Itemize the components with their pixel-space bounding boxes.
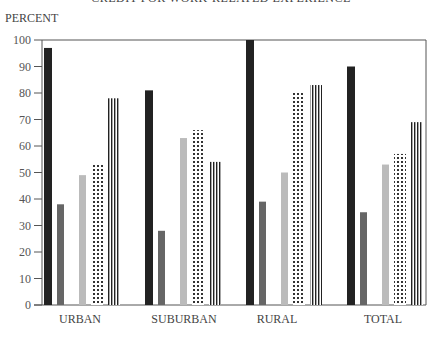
- y-tick-label: 10: [19, 272, 31, 286]
- x-category-label: TOTAL: [364, 312, 402, 326]
- x-category-label: RURAL: [257, 312, 298, 326]
- y-tick-label: 50: [19, 166, 31, 180]
- bar-total-series-3: [382, 165, 389, 305]
- bar-total-series-5: [411, 122, 423, 305]
- y-tick-label: 0: [25, 298, 31, 312]
- bar-suburban-series-2: [158, 231, 165, 305]
- y-tick-label: 100: [13, 33, 31, 47]
- bars: [44, 40, 423, 305]
- y-tick-label: 40: [19, 192, 31, 206]
- x-category-label: URBAN: [59, 312, 101, 326]
- y-tick-label: 20: [19, 245, 31, 259]
- y-tick-label: 90: [19, 60, 31, 74]
- y-tick-label: 70: [19, 113, 31, 127]
- x-categories: URBANSUBURBANRURALTOTAL: [59, 312, 402, 326]
- bar-suburban-series-5: [209, 162, 221, 305]
- x-category-label: SUBURBAN: [151, 312, 217, 326]
- bar-urban-series-4: [91, 165, 103, 305]
- bar-rural-series-1: [246, 40, 254, 305]
- y-ticks: 0102030405060708090100: [13, 33, 42, 312]
- bar-rural-series-2: [259, 202, 266, 305]
- bar-total-series-2: [360, 212, 367, 305]
- bar-urban-series-1: [44, 48, 52, 305]
- y-axis-label: PERCENT: [5, 11, 59, 25]
- y-tick-label: 30: [19, 219, 31, 233]
- y-tick-label: 80: [19, 86, 31, 100]
- bar-suburban-series-1: [145, 90, 153, 305]
- bar-suburban-series-3: [180, 138, 187, 305]
- bar-urban-series-2: [57, 204, 64, 305]
- bar-urban-series-5: [108, 98, 120, 305]
- chart-title: CREDIT FOR WORK-RELATED EXPERIENCE: [91, 0, 351, 5]
- bar-suburban-series-4: [192, 130, 204, 305]
- bar-total-series-1: [347, 67, 355, 306]
- bar-rural-series-4: [293, 93, 305, 305]
- bar-total-series-4: [394, 154, 406, 305]
- y-tick-label: 60: [19, 139, 31, 153]
- bar-rural-series-5: [310, 85, 322, 305]
- bar-rural-series-3: [281, 173, 288, 306]
- bar-chart: CREDIT FOR WORK-RELATED EXPERIENCE PERCE…: [0, 0, 442, 341]
- bar-urban-series-3: [79, 175, 86, 305]
